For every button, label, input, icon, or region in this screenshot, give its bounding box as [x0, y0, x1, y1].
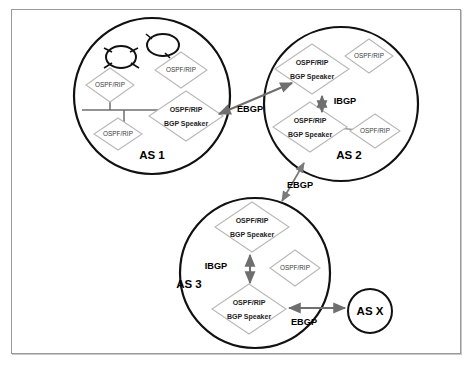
node-label: OSPF/RIP	[354, 52, 384, 59]
node-label: OSPF/RIP	[280, 264, 310, 271]
node-label: OSPF/RIP	[95, 81, 125, 88]
ibgp-link-as2[interactable]: IBGP	[322, 96, 356, 112]
node-label: OSPF/RIP	[360, 127, 390, 134]
node-label: OSPF/RIP	[166, 66, 196, 73]
as3-bgp-speaker-node[interactable]: OSPF/RIP BGP Speaker	[215, 202, 289, 252]
as1-network-cloud-2	[146, 34, 179, 58]
as-group-as2[interactable]: OSPF/RIP BGP Speaker OSPF/RIP OSPF/RIP B…	[264, 27, 418, 181]
node-label-protocol: OSPF/RIP	[170, 106, 203, 113]
node-label-protocol: OSPF/RIP	[233, 299, 266, 306]
external-as-group[interactable]: AS X	[348, 289, 392, 333]
node-label-protocol: OSPF/RIP	[296, 59, 329, 66]
as2-label: AS 2	[336, 149, 362, 161]
as2-router-node[interactable]: OSPF/RIP	[350, 114, 400, 148]
node-label-role: BGP Speaker	[227, 313, 272, 321]
as1-network-cloud-1	[104, 46, 139, 68]
as1-router-node[interactable]: OSPF/RIP	[86, 68, 134, 102]
as-group-as1[interactable]: OSPF/RIP OSPF/RIP OSPF/RIP OSPF/RIP BGP …	[74, 18, 230, 174]
node-label-role: BGP Speaker	[164, 120, 209, 128]
as3-bgp-speaker-node[interactable]: OSPF/RIP BGP Speaker	[212, 284, 286, 334]
ebgp-label: EBGP	[237, 104, 263, 114]
ibgp-link-as3[interactable]: IBGP	[205, 255, 250, 283]
as1-router-node[interactable]: OSPF/RIP	[94, 118, 142, 150]
as1-bgp-speaker-node[interactable]: OSPF/RIP BGP Speaker	[149, 91, 223, 141]
ibgp-label: IBGP	[334, 96, 356, 106]
asx-label: AS X	[357, 305, 384, 317]
ibgp-label: IBGP	[205, 261, 227, 271]
node-label-protocol: OSPF/RIP	[294, 117, 327, 124]
as3-router-node[interactable]: OSPF/RIP	[270, 250, 320, 286]
as1-internal-bus	[82, 101, 160, 122]
as2-router-node[interactable]: OSPF/RIP	[345, 39, 393, 73]
as3-label: AS 3	[176, 278, 202, 290]
node-label-role: BGP Speaker	[230, 231, 275, 239]
cloud-ellipse-icon	[106, 46, 136, 68]
cloud-ellipse-icon	[147, 34, 179, 56]
ebgp-label: EBGP	[291, 317, 317, 327]
ebgp-label: EBGP	[287, 180, 313, 190]
diagram-canvas: OSPF/RIP OSPF/RIP OSPF/RIP OSPF/RIP BGP …	[0, 0, 476, 371]
node-label-protocol: OSPF/RIP	[236, 217, 269, 224]
node-label: OSPF/RIP	[103, 130, 133, 137]
as1-router-node[interactable]: OSPF/RIP	[155, 52, 207, 88]
network-diagram: OSPF/RIP OSPF/RIP OSPF/RIP OSPF/RIP BGP …	[0, 0, 476, 371]
node-label-role: BGP Speaker	[288, 131, 333, 139]
ebgp-link-as3-asx[interactable]: EBGP	[289, 308, 345, 327]
node-label-role: BGP Speaker	[290, 73, 335, 81]
as1-label: AS 1	[139, 149, 165, 161]
as2-bgp-speaker-node[interactable]: OSPF/RIP BGP Speaker	[273, 102, 347, 152]
